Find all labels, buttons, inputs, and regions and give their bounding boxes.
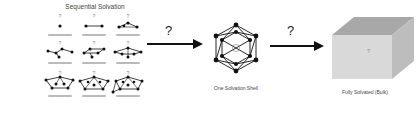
- shell-caption: One Solvation Shell: [200, 85, 272, 91]
- wavenumber-label: [48, 62, 72, 64]
- cluster-n1: ?: [42, 12, 78, 40]
- wavenumber-label: [116, 62, 140, 64]
- icosahedron-shell-icon: [211, 22, 261, 74]
- wavenumber-label: [48, 95, 72, 97]
- wavenumber-label: [82, 62, 106, 64]
- wavenumber-label: [82, 95, 106, 97]
- cluster-n6: ?: [110, 40, 146, 68]
- arrow1-question-mark: ?: [165, 23, 172, 38]
- cluster-n2: ?: [76, 12, 112, 40]
- arrow2-question-mark: ?: [287, 23, 294, 38]
- wavenumber-label: [48, 34, 72, 36]
- arrow-right-icon: [145, 38, 205, 50]
- svg-text:?: ?: [127, 13, 130, 19]
- bulk-caption: Fully Solvated (Bulk): [320, 89, 410, 95]
- svg-text:?: ?: [59, 70, 62, 76]
- cluster-n9: ?: [110, 70, 146, 98]
- svg-text:?: ?: [367, 48, 370, 54]
- wavenumber-label: [82, 34, 106, 36]
- cluster-n7: ?: [42, 70, 78, 98]
- wavenumber-label: [116, 95, 140, 97]
- svg-text:?: ?: [93, 70, 96, 76]
- cluster-n5: ?: [76, 40, 112, 68]
- svg-text:?: ?: [59, 13, 62, 19]
- svg-text:?: ?: [93, 13, 96, 19]
- svg-text:?: ?: [59, 40, 62, 46]
- svg-text:?: ?: [93, 40, 96, 46]
- wavenumber-label: [116, 34, 140, 36]
- cluster-n3: ?: [110, 12, 146, 40]
- svg-text:?: ?: [127, 70, 130, 76]
- arrow-right-icon: [268, 40, 328, 52]
- svg-text:?: ?: [127, 40, 130, 46]
- cluster-n8: ?: [76, 70, 112, 98]
- cluster-n4: ?: [42, 40, 78, 68]
- bulk-cube-icon: ?: [330, 15, 416, 79]
- sequential-solvation-title: Sequential Solvation: [40, 3, 150, 10]
- cluster-grid: ? ? ? ? ?: [38, 12, 148, 104]
